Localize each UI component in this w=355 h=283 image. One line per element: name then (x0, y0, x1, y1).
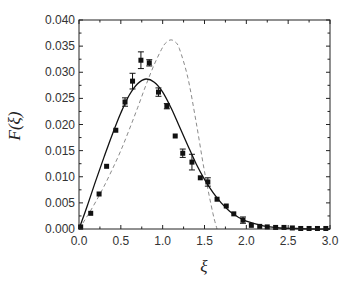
data-point (189, 160, 194, 165)
data-point (88, 211, 93, 216)
data-point (205, 179, 210, 184)
data-point (307, 226, 312, 231)
data-point (198, 175, 203, 180)
data-point (240, 218, 245, 223)
data-point (173, 133, 178, 138)
data-point (298, 226, 303, 231)
data-point (156, 90, 161, 95)
x-tick-label: 0.0 (71, 234, 88, 248)
data-point (130, 79, 135, 84)
y-axis-label: F(ξ) (5, 111, 24, 141)
data-point (215, 197, 220, 202)
data-point (113, 128, 118, 133)
y-tick-label: 0.030 (45, 65, 75, 79)
y-tick-label: 0.025 (45, 91, 75, 105)
y-tick-label: 0.035 (45, 39, 75, 53)
data-point (104, 164, 109, 169)
y-tick-label: 0.000 (45, 222, 75, 236)
data-point (97, 191, 102, 196)
x-tick-label: 1.0 (154, 234, 171, 248)
data-point (147, 60, 152, 65)
data-point (224, 204, 229, 209)
y-tick-label: 0.010 (45, 170, 75, 184)
data-point (249, 223, 254, 228)
plot-content (78, 40, 330, 231)
data-point (231, 211, 236, 216)
x-axis-label: ξ (200, 257, 208, 276)
dashed-model-curve (79, 40, 217, 229)
data-point (138, 58, 143, 63)
data-point (257, 224, 262, 229)
chart: 0.00.51.01.52.02.53.00.0000.0050.0100.01… (0, 0, 355, 283)
y-tick-label: 0.005 (45, 196, 75, 210)
x-tick-label: 0.5 (112, 234, 129, 248)
y-tick-label: 0.020 (45, 118, 75, 132)
data-point (164, 104, 169, 109)
data-point (323, 226, 328, 231)
data-point (315, 226, 320, 231)
solid-fit-curve (79, 79, 330, 229)
data-point (123, 100, 128, 105)
data-point (290, 225, 295, 230)
x-tick-label: 2.0 (238, 234, 255, 248)
x-tick-label: 3.0 (322, 234, 339, 248)
y-tick-label: 0.015 (45, 144, 75, 158)
x-tick-label: 1.5 (196, 234, 213, 248)
data-points (78, 52, 328, 231)
y-tick-label: 0.040 (45, 13, 75, 27)
x-tick-label: 2.5 (280, 234, 297, 248)
data-point (180, 151, 185, 156)
